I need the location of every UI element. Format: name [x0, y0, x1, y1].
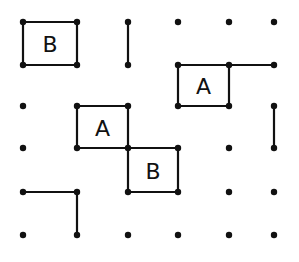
grid-dot[interactable] — [125, 232, 131, 238]
grid-dot[interactable] — [74, 62, 80, 68]
grid-dot[interactable] — [175, 189, 181, 195]
grid-dot[interactable] — [271, 19, 277, 25]
grid-dot[interactable] — [271, 232, 277, 238]
grid-dot[interactable] — [226, 145, 232, 151]
grid-dot[interactable] — [20, 103, 26, 109]
grid-dot[interactable] — [74, 189, 80, 195]
box-owner-b: B — [145, 159, 160, 184]
grid-dot[interactable] — [20, 189, 26, 195]
drawn-edges — [23, 22, 274, 235]
grid-dot[interactable] — [175, 62, 181, 68]
grid-dot[interactable] — [226, 189, 232, 195]
grid-dot[interactable] — [20, 145, 26, 151]
grid-dot[interactable] — [74, 19, 80, 25]
grid-dot[interactable] — [271, 145, 277, 151]
grid-dot[interactable] — [226, 103, 232, 109]
grid-dot[interactable] — [175, 145, 181, 151]
grid-dot[interactable] — [125, 103, 131, 109]
grid-dot[interactable] — [20, 232, 26, 238]
grid-dot[interactable] — [271, 189, 277, 195]
grid-dot[interactable] — [20, 62, 26, 68]
grid-dot[interactable] — [175, 19, 181, 25]
grid-dot[interactable] — [271, 62, 277, 68]
grid-dot[interactable] — [125, 145, 131, 151]
grid-dots — [20, 19, 277, 238]
grid-dot[interactable] — [74, 232, 80, 238]
grid-dot[interactable] — [226, 232, 232, 238]
grid-dot[interactable] — [271, 103, 277, 109]
grid-dot[interactable] — [175, 103, 181, 109]
game-board[interactable]: BAAB — [0, 0, 299, 262]
grid-dot[interactable] — [226, 19, 232, 25]
grid-dot[interactable] — [226, 62, 232, 68]
box-owner-b: B — [42, 32, 57, 57]
box-owner-a: A — [196, 74, 211, 99]
grid-dot[interactable] — [74, 145, 80, 151]
grid-dot[interactable] — [20, 19, 26, 25]
grid-dot[interactable] — [175, 232, 181, 238]
grid-dot[interactable] — [125, 62, 131, 68]
box-owner-a: A — [95, 116, 110, 141]
grid-dot[interactable] — [74, 103, 80, 109]
grid-dot[interactable] — [125, 19, 131, 25]
grid-dot[interactable] — [125, 189, 131, 195]
